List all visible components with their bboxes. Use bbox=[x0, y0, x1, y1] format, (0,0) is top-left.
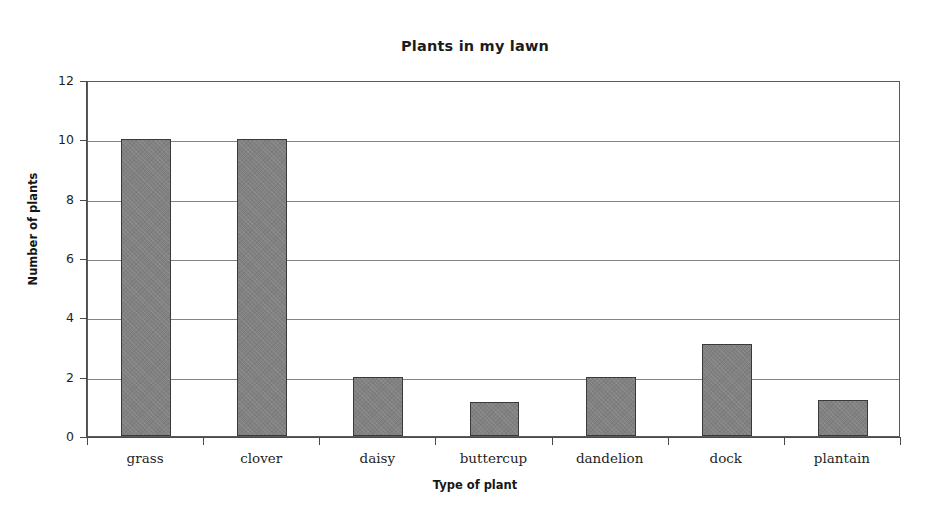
x-tick-mark bbox=[668, 438, 669, 445]
x-tick-label: dock bbox=[668, 450, 784, 466]
x-tick-label: daisy bbox=[319, 450, 435, 466]
y-tick-label: 4 bbox=[48, 310, 74, 325]
bar bbox=[470, 402, 520, 436]
y-tick-label-wrap: 2 bbox=[48, 370, 74, 386]
x-tick-mark bbox=[435, 438, 436, 445]
plot-area bbox=[87, 81, 900, 437]
bar bbox=[586, 377, 636, 436]
y-tick-mark bbox=[80, 318, 87, 319]
bar bbox=[702, 344, 752, 436]
bars-group bbox=[88, 82, 899, 436]
y-tick-mark bbox=[80, 378, 87, 379]
y-tick-label-wrap: 10 bbox=[48, 132, 74, 148]
x-tick-mark bbox=[552, 438, 553, 445]
bar bbox=[818, 400, 868, 436]
x-tick-mark bbox=[900, 438, 901, 445]
bar bbox=[121, 139, 171, 436]
x-axis-line bbox=[87, 437, 901, 438]
x-axis-title: Type of plant bbox=[0, 478, 950, 492]
y-tick-label: 8 bbox=[48, 192, 74, 207]
bar bbox=[237, 139, 287, 436]
bar-chart-figure: Plants in my lawn 024681012 Number of pl… bbox=[0, 0, 950, 518]
bar bbox=[353, 377, 403, 436]
y-tick-mark bbox=[80, 140, 87, 141]
x-tick-mark bbox=[319, 438, 320, 445]
y-axis-title: Number of plants bbox=[26, 154, 40, 304]
chart-title: Plants in my lawn bbox=[0, 38, 950, 54]
x-tick-label: clover bbox=[203, 450, 319, 466]
y-tick-label: 6 bbox=[48, 251, 74, 266]
y-tick-label: 10 bbox=[48, 132, 74, 147]
x-tick-label: grass bbox=[87, 450, 203, 466]
y-tick-mark bbox=[80, 259, 87, 260]
x-tick-mark bbox=[203, 438, 204, 445]
y-tick-label-wrap: 0 bbox=[48, 429, 74, 445]
y-tick-label-wrap: 6 bbox=[48, 251, 74, 267]
x-tick-label: plantain bbox=[784, 450, 900, 466]
x-tick-label: dandelion bbox=[552, 450, 668, 466]
x-tick-mark bbox=[784, 438, 785, 445]
y-tick-label: 12 bbox=[48, 73, 74, 88]
x-tick-mark bbox=[87, 438, 88, 445]
y-tick-label-wrap: 4 bbox=[48, 310, 74, 326]
y-tick-mark bbox=[80, 200, 87, 201]
y-tick-mark bbox=[80, 81, 87, 82]
y-tick-label: 0 bbox=[48, 429, 74, 444]
y-tick-label: 2 bbox=[48, 370, 74, 385]
y-tick-label-wrap: 12 bbox=[48, 73, 74, 89]
y-tick-label-wrap: 8 bbox=[48, 192, 74, 208]
x-tick-label: buttercup bbox=[435, 450, 551, 466]
y-tick-mark bbox=[80, 437, 87, 438]
